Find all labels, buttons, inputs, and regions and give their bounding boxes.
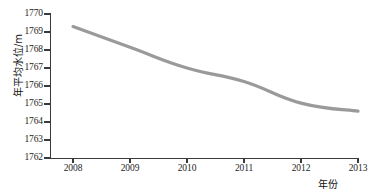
x-tick-label: 2009 <box>110 163 150 173</box>
y-tick <box>44 139 50 140</box>
y-tick-label: 1769 <box>3 27 43 37</box>
x-axis-line <box>50 158 359 159</box>
y-tick <box>44 121 50 122</box>
y-tick-label: 1763 <box>3 135 43 145</box>
x-tick-label: 2012 <box>281 163 321 173</box>
y-tick <box>44 157 50 158</box>
y-tick-label: 1765 <box>3 99 43 109</box>
y-tick <box>44 13 50 14</box>
y-tick-label: 1767 <box>3 63 43 73</box>
series-line-water-level <box>73 27 358 112</box>
y-tick-label: 1770 <box>3 9 43 19</box>
y-tick <box>44 67 50 68</box>
y-tick-label: 1766 <box>3 81 43 91</box>
x-tick-label: 2008 <box>53 163 93 173</box>
x-tick-label: 2011 <box>224 163 264 173</box>
y-tick <box>44 103 50 104</box>
y-tick-label: 1762 <box>3 153 43 163</box>
y-axis-line <box>50 13 51 159</box>
y-tick-label: 1768 <box>3 45 43 55</box>
x-tick-label: 2013 <box>338 163 373 173</box>
x-tick-label: 2010 <box>167 163 207 173</box>
x-axis-title: 年份 <box>318 176 338 191</box>
y-tick <box>44 85 50 86</box>
y-tick-label: 1764 <box>3 117 43 127</box>
y-tick <box>44 49 50 50</box>
y-tick <box>44 31 50 32</box>
water-level-line-chart: 年平均水位/m 年份 17701769176817671766176517641… <box>0 0 373 195</box>
